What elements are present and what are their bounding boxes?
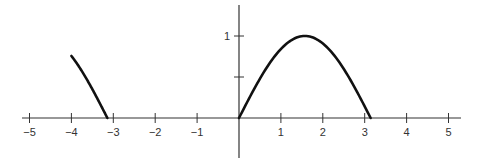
x-tick-label: 1	[278, 126, 284, 138]
y-tick-label: 1	[224, 30, 230, 42]
x-tick-label: −5	[23, 126, 36, 138]
x-tick-label: −3	[107, 126, 120, 138]
curves	[71, 36, 370, 118]
plot-area: −5−4−3−2−112345 1	[0, 0, 481, 159]
sine-curve	[239, 36, 371, 118]
x-tick-label: 2	[320, 126, 326, 138]
x-tick-label: −4	[65, 126, 78, 138]
x-tick-label: −2	[149, 126, 162, 138]
x-tick-label: 4	[404, 126, 410, 138]
x-tick-label: −1	[191, 126, 204, 138]
x-tick-label: 5	[445, 126, 451, 138]
sine-curve	[71, 56, 107, 118]
x-tick-label: 3	[362, 126, 368, 138]
x-ticks: −5−4−3−2−112345	[23, 113, 451, 138]
y-ticks: 1	[224, 30, 244, 77]
